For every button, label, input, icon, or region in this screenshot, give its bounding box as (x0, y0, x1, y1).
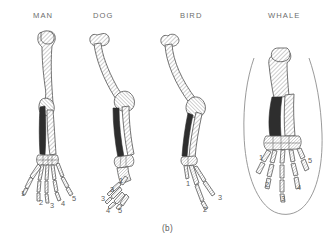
dog-digit-label-2: 2 (110, 185, 114, 194)
bird-digit-label-2: 2 (203, 205, 207, 214)
specimen-label-whale: WHALE (268, 11, 301, 20)
whale-digit-label-1: 1 (259, 153, 263, 162)
dog-digit-label-1: 1 (119, 176, 123, 185)
whale-digit-label-2: 2 (265, 180, 269, 189)
man-forelimb-skeleton (22, 31, 73, 203)
dog-digit-label-5: 5 (118, 206, 122, 215)
whale-radius (284, 94, 295, 136)
bird-digit-label-3: 3 (218, 193, 222, 202)
whale-digit-label-3: 3 (281, 194, 285, 203)
dog-forelimb-skeleton (90, 33, 135, 210)
homologous-forelimbs-figure: 1 2 3 4 5 1 2 3 4 5 1 2 3 1 2 3 4 5 MAN … (0, 0, 331, 248)
dog-digit-label-3: 3 (101, 194, 105, 203)
man-humerus-head (41, 31, 54, 44)
bird-carpals (181, 156, 197, 166)
whale-digit-label-5: 5 (308, 156, 312, 165)
figure-caption: (b) (162, 224, 173, 233)
man-digit-label-1: 1 (21, 189, 25, 198)
man-digit-label-4: 4 (61, 199, 65, 208)
man-radius (47, 110, 56, 155)
man-digit-label-5: 5 (72, 194, 76, 203)
man-digit-label-3: 3 (50, 201, 54, 210)
man-digit-5 (56, 163, 73, 196)
man-digit-3 (45, 165, 49, 203)
whale-humerus-head (271, 48, 290, 62)
dog-carpals (114, 155, 134, 168)
whale-digit-label-4: 4 (297, 183, 301, 192)
dog-digit-label-4: 4 (106, 206, 110, 215)
whale-carpals (264, 136, 301, 150)
specimen-label-dog: DOG (93, 11, 114, 20)
whale-ulna (269, 97, 282, 136)
bird-digit-1 (184, 165, 189, 179)
man-digit-label-2: 2 (39, 198, 43, 207)
whale-forelimb-skeleton (244, 48, 322, 214)
dog-radius (122, 106, 134, 156)
specimen-label-bird: BIRD (180, 11, 203, 20)
specimen-label-man: MAN (33, 11, 53, 20)
man-ulna (39, 106, 46, 155)
man-carpals (37, 155, 59, 165)
skeleton-illustration: 1 2 3 4 5 1 2 3 4 5 1 2 3 1 2 3 4 5 (0, 0, 331, 248)
bird-humerus (165, 44, 196, 104)
bird-digit-label-1: 1 (186, 179, 190, 188)
